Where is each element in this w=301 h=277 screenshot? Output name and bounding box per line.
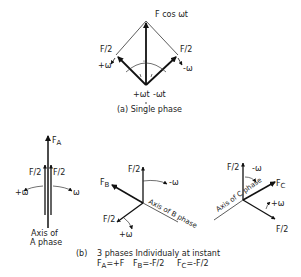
phase-a-left-component-label: F/2	[29, 168, 41, 177]
phase-a-diagram: FA F/2 F/2 +ω ω Axis of A phase	[15, 136, 80, 247]
phase-b-up-component-label: F/2	[128, 165, 140, 174]
phase-b-rotation-up-label: -ω	[169, 178, 179, 187]
phase-c-down-component-label: F/2	[276, 225, 288, 234]
phase-b-down-component-label: F/2	[103, 215, 115, 224]
instant-c-value: FC=-F/2	[177, 259, 208, 270]
instant-a-value: FA=+F	[97, 259, 125, 270]
caption-b-text: 3 phases Individualy at instant	[97, 249, 220, 258]
left-rotation-label: +ω	[98, 61, 112, 70]
phase-a-left-rotation-label: +ω	[15, 188, 29, 197]
right-angle-label: -ωt	[153, 90, 166, 99]
parallelogram-side	[146, 21, 178, 55]
phase-b-rotation-down-label: +ω	[119, 230, 133, 239]
phase-c-up-component-label: F/2	[227, 163, 239, 172]
phase-b-resultant-label: FB	[100, 178, 110, 189]
caption-b-prefix: (b)	[76, 249, 87, 258]
phase-c-rotation-down	[266, 202, 270, 209]
phasor-diagram: F cos ωt F/2 F/2 +ω -ω +ωt -ωt (a) Singl…	[0, 0, 301, 277]
phase-a-rotation-right	[53, 186, 72, 191]
phase-a-axis-line1: Axis of	[31, 229, 58, 238]
right-component-arrow	[146, 57, 176, 85]
phase-a-resultant-label: FA	[52, 136, 62, 147]
phase-a-right-component-label: F/2	[53, 168, 65, 177]
phase-b-rotation-up	[143, 180, 167, 184]
phase-b-resultant-arrow	[112, 185, 143, 203]
phase-a-axis-line2: A phase	[30, 238, 62, 247]
rotation-arrow-left	[111, 58, 115, 64]
left-component-arrow	[118, 57, 146, 85]
phase-c-rotation-up-label: -ω	[252, 164, 262, 173]
caption-a: (a) Single phase	[117, 105, 182, 114]
phase-c-resultant-label: FC	[276, 179, 286, 190]
phase-b-down-component-arrow	[117, 203, 143, 222]
phase-b-axis-label: Axis of B phase	[147, 198, 198, 230]
phase-b-diagram: F/2 FB F/2 -ω +ω Axis of B phase	[100, 165, 198, 239]
phase-a-right-rotation-label: ω	[73, 188, 80, 197]
instant-b-value: FB=-F/2	[133, 259, 164, 270]
phase-c-diagram: F/2 -ω FC +ω F/2 Axis of C phase	[214, 163, 288, 234]
resultant-label: F cos ωt	[155, 10, 188, 19]
parallelogram-side	[116, 21, 146, 55]
rotation-arrow-right	[178, 58, 182, 65]
right-rotation-label: -ω	[183, 64, 193, 73]
phase-b-rotation-down	[124, 218, 132, 229]
left-angle-label: +ωt	[133, 90, 150, 99]
caption-b: (b) 3 phases Individualy at instant FA=+…	[76, 249, 220, 270]
single-phase-diagram: F cos ωt F/2 F/2 +ω -ω +ωt -ωt (a) Singl…	[98, 10, 193, 114]
left-component-label: F/2	[100, 45, 112, 54]
phase-c-rotation-down-label: +ω	[271, 199, 285, 208]
right-component-label: F/2	[180, 45, 192, 54]
